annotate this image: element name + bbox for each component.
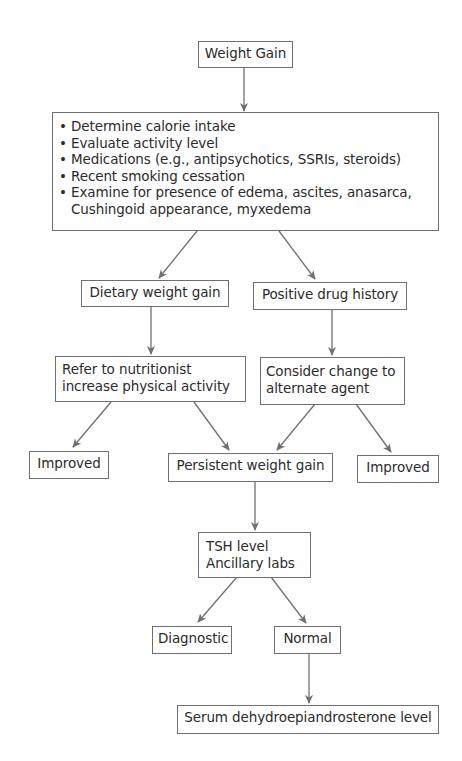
arrow-alternate-to-persistent <box>277 404 315 450</box>
bullet-icon: • <box>59 118 67 135</box>
node-initial-evaluation: • Determine calorie intake • Evaluate ac… <box>52 112 439 231</box>
node-diagnostic: Diagnostic <box>152 626 232 654</box>
node-persistent-weight-gain: Persistent weight gain <box>168 453 333 482</box>
arrow-nutritionist-to-improved-left <box>73 402 111 447</box>
bullet-icon: • <box>59 168 67 185</box>
arrow-eval-to-drug <box>279 231 315 279</box>
node-normal: Normal <box>274 626 341 654</box>
node-weight-gain-label: Weight Gain <box>205 45 286 61</box>
arrow-tsh-to-diagnostic <box>198 577 237 622</box>
node-tsh-level: TSH level Ancillary labs <box>198 532 311 578</box>
node-weight-gain: Weight Gain <box>198 41 293 68</box>
arrow-tsh-to-normal <box>271 577 306 623</box>
arrow-alternate-to-improved-right <box>356 404 391 452</box>
node-improved-right: Improved <box>357 455 439 483</box>
checklist-item: • Determine calorie intake <box>59 118 432 135</box>
bullet-icon: • <box>59 151 67 168</box>
checklist-item: • Recent smoking cessation <box>59 168 432 185</box>
arrow-nutritionist-to-persistent <box>194 402 229 450</box>
evaluation-checklist: • Determine calorie intake • Evaluate ac… <box>59 118 432 217</box>
checklist-item: • Evaluate activity level <box>59 135 432 152</box>
checklist-item: • Medications (e.g., antipsychotics, SSR… <box>59 151 432 168</box>
checklist-item: • Examine for presence of edema, ascites… <box>59 184 432 217</box>
node-refer-nutritionist: Refer to nutritionist increase physical … <box>55 356 246 402</box>
node-improved-left: Improved <box>29 451 109 479</box>
bullet-icon: • <box>59 184 67 201</box>
bullet-icon: • <box>59 135 67 152</box>
node-dietary-weight-gain: Dietary weight gain <box>81 280 229 307</box>
node-serum-dhea: Serum dehydroepiandrosterone level <box>177 705 439 734</box>
arrow-eval-to-dietary <box>159 231 197 278</box>
node-positive-drug-history: Positive drug history <box>253 282 407 310</box>
node-alternate-agent: Consider change to alternate agent <box>260 357 405 405</box>
